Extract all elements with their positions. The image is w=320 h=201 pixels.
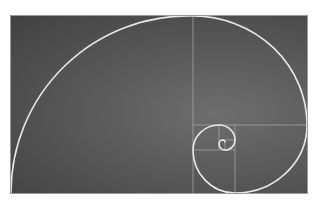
fibonacci-grid-lines (193, 16, 307, 193)
golden-spiral-curve (11, 16, 307, 193)
cropped-caption (0, 0, 320, 5)
golden-spiral-graphic (11, 16, 307, 193)
golden-spiral-panel (11, 16, 307, 193)
